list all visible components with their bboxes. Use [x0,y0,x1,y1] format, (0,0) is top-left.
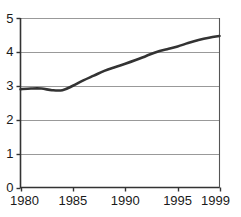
y-tick-label-4: 4 [6,44,13,59]
x-tick-label-1990: 1990 [111,193,140,208]
chart-canvas: 012345 19801985199019951999 [0,0,241,217]
x-tick-label-1999: 1999 [201,193,230,208]
y-tick-label-3: 3 [6,78,13,93]
x-tick-label-1980: 1980 [10,193,39,208]
y-tick-label-2: 2 [6,112,13,127]
x-tick-label-1995: 1995 [163,193,192,208]
x-tick-label-1985: 1985 [58,193,87,208]
y-tick-label-1: 1 [6,146,13,161]
line-chart: 012345 19801985199019951999 [0,0,241,217]
chart-background [0,0,241,217]
y-tick-label-5: 5 [6,11,13,26]
